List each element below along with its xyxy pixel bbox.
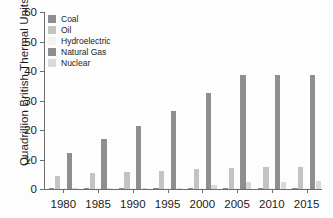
y-tick-mark xyxy=(40,42,44,43)
legend-item-nuclear: Nuclear xyxy=(48,58,111,68)
y-tick-mark xyxy=(40,130,44,131)
bar xyxy=(159,171,164,189)
bar xyxy=(119,188,124,189)
legend-swatch-icon xyxy=(48,15,56,23)
x-tick-mark xyxy=(168,189,169,193)
bar xyxy=(246,182,251,189)
bar xyxy=(310,75,315,189)
y-tick-mark xyxy=(40,12,44,13)
legend-swatch-icon xyxy=(48,26,56,34)
legend-label: Coal xyxy=(61,14,78,24)
x-tick-mark xyxy=(202,189,203,193)
y-tick-label: 30 xyxy=(24,95,37,107)
bar xyxy=(258,188,263,189)
bar xyxy=(96,188,101,189)
bar xyxy=(72,188,77,189)
bar xyxy=(107,188,112,189)
x-tick-label: 2010 xyxy=(259,198,285,210)
legend-swatch-icon xyxy=(48,48,56,56)
y-tick-label: 60 xyxy=(24,6,37,18)
legend-item-coal: Coal xyxy=(48,14,111,24)
bar xyxy=(194,169,199,189)
y-tick-mark xyxy=(40,189,44,190)
bar xyxy=(171,111,176,189)
x-tick-mark xyxy=(98,189,99,193)
y-tick-label: 20 xyxy=(24,124,37,136)
bar xyxy=(223,188,228,189)
bar xyxy=(90,173,95,189)
bar xyxy=(263,167,268,189)
y-tick-label: 40 xyxy=(24,65,37,77)
bar xyxy=(206,93,211,189)
y-axis-line xyxy=(44,12,45,190)
bar xyxy=(67,153,72,189)
x-tick-label: 1980 xyxy=(51,198,77,210)
bar xyxy=(124,172,129,189)
bar xyxy=(200,188,205,189)
x-tick-mark xyxy=(307,189,308,193)
bar xyxy=(142,188,147,189)
bar xyxy=(298,167,303,189)
x-tick-mark xyxy=(133,189,134,193)
bar xyxy=(281,182,286,189)
x-tick-label: 1995 xyxy=(155,198,181,210)
bar xyxy=(153,188,158,189)
bar xyxy=(211,185,216,189)
bar xyxy=(84,188,89,189)
legend-item-oil: Oil xyxy=(48,25,111,35)
x-tick-label: 2000 xyxy=(190,198,216,210)
x-tick-label: 2015 xyxy=(294,198,320,210)
y-tick-mark xyxy=(40,71,44,72)
x-tick-mark xyxy=(272,189,273,193)
x-tick-label: 1985 xyxy=(85,198,111,210)
bar xyxy=(304,188,309,189)
legend-item-natural-gas: Natural Gas xyxy=(48,47,111,57)
y-tick-mark xyxy=(40,160,44,161)
y-tick-label: 50 xyxy=(24,36,37,48)
bar xyxy=(177,188,182,189)
x-axis-line xyxy=(44,189,322,190)
legend-label: Hydroelectric xyxy=(61,36,111,46)
legend-label: Natural Gas xyxy=(61,47,106,57)
bar-chart: Quadrillion British Thermal Units 010203… xyxy=(0,0,333,218)
legend-item-hydroelectric: Hydroelectric xyxy=(48,36,111,46)
y-tick-mark xyxy=(40,101,44,102)
bar xyxy=(275,75,280,189)
x-tick-mark xyxy=(63,189,64,193)
bar xyxy=(49,188,54,189)
y-axis-title: Quadrillion British Thermal Units xyxy=(18,0,30,172)
y-tick-label: 10 xyxy=(24,154,37,166)
chart-legend: CoalOilHydroelectricNatural GasNuclear xyxy=(48,14,111,68)
y-tick-label: 0 xyxy=(31,183,37,195)
bar xyxy=(136,126,141,189)
bar xyxy=(188,188,193,189)
bar xyxy=(240,75,245,189)
x-tick-label: 2005 xyxy=(224,198,250,210)
bar xyxy=(55,176,60,189)
legend-label: Oil xyxy=(61,25,71,35)
bar xyxy=(235,188,240,189)
bar xyxy=(130,188,135,189)
bar xyxy=(61,188,66,189)
legend-swatch-icon xyxy=(48,59,56,67)
bar xyxy=(269,188,274,189)
bar xyxy=(292,188,297,189)
x-tick-label: 1990 xyxy=(120,198,146,210)
bar xyxy=(101,139,106,189)
legend-label: Nuclear xyxy=(61,58,90,68)
bar xyxy=(165,188,170,189)
legend-swatch-icon xyxy=(48,37,56,45)
x-tick-mark xyxy=(237,189,238,193)
bar xyxy=(229,168,234,189)
bar xyxy=(316,181,321,189)
